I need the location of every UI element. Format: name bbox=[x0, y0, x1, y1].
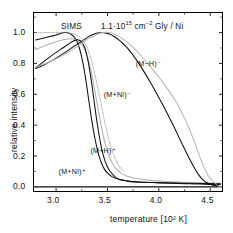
y-tick-label: 0.0 bbox=[13, 181, 25, 191]
x-tick-label: 3.0 bbox=[47, 195, 59, 205]
series-label--m-ni-main: (M+Ni)⁻ bbox=[104, 90, 131, 99]
y-tick-label: 0.4 bbox=[13, 120, 25, 130]
plot-canvas bbox=[0, 0, 233, 233]
sims-thermal-desorption-figure: SIMS 1.1·1015 cm−2 Gly / Ni relative int… bbox=[0, 0, 233, 233]
x-tick-label: 4.0 bbox=[150, 195, 162, 205]
conditions-label: 1.1·1015 cm−2 Gly / Ni bbox=[101, 22, 183, 31]
curve--m-ni- bbox=[36, 40, 221, 184]
data-curves bbox=[36, 32, 221, 187]
x-axis-title: temperature [10² K] bbox=[110, 214, 187, 224]
coverage-value: 1.1·10 bbox=[101, 22, 125, 31]
y-tick-label: 1.0 bbox=[13, 27, 25, 37]
y-tick-label: 0.6 bbox=[13, 89, 25, 99]
x-tick-label: 3.5 bbox=[98, 195, 110, 205]
axis-ticks bbox=[34, 13, 223, 192]
x-tick-label: 4.5 bbox=[201, 195, 213, 205]
curve--m-ni-companion bbox=[36, 32, 217, 184]
curve--m-h-companion bbox=[36, 39, 221, 184]
plot-frame bbox=[34, 13, 223, 192]
technique-label: SIMS bbox=[61, 22, 82, 31]
series-label--m-h-: (M−H)⁻ bbox=[136, 59, 161, 68]
y-tick-label: 0.8 bbox=[13, 58, 25, 68]
units-exponent: −2 bbox=[146, 20, 153, 26]
series-label--m-h-: (M+H)⁺ bbox=[90, 146, 115, 155]
units-prefix: cm bbox=[132, 22, 146, 31]
y-tick-label: 0.2 bbox=[13, 151, 25, 161]
series-label--m-ni-: (M+Ni)⁺ bbox=[59, 167, 86, 176]
sample-label: Gly / Ni bbox=[153, 22, 184, 31]
